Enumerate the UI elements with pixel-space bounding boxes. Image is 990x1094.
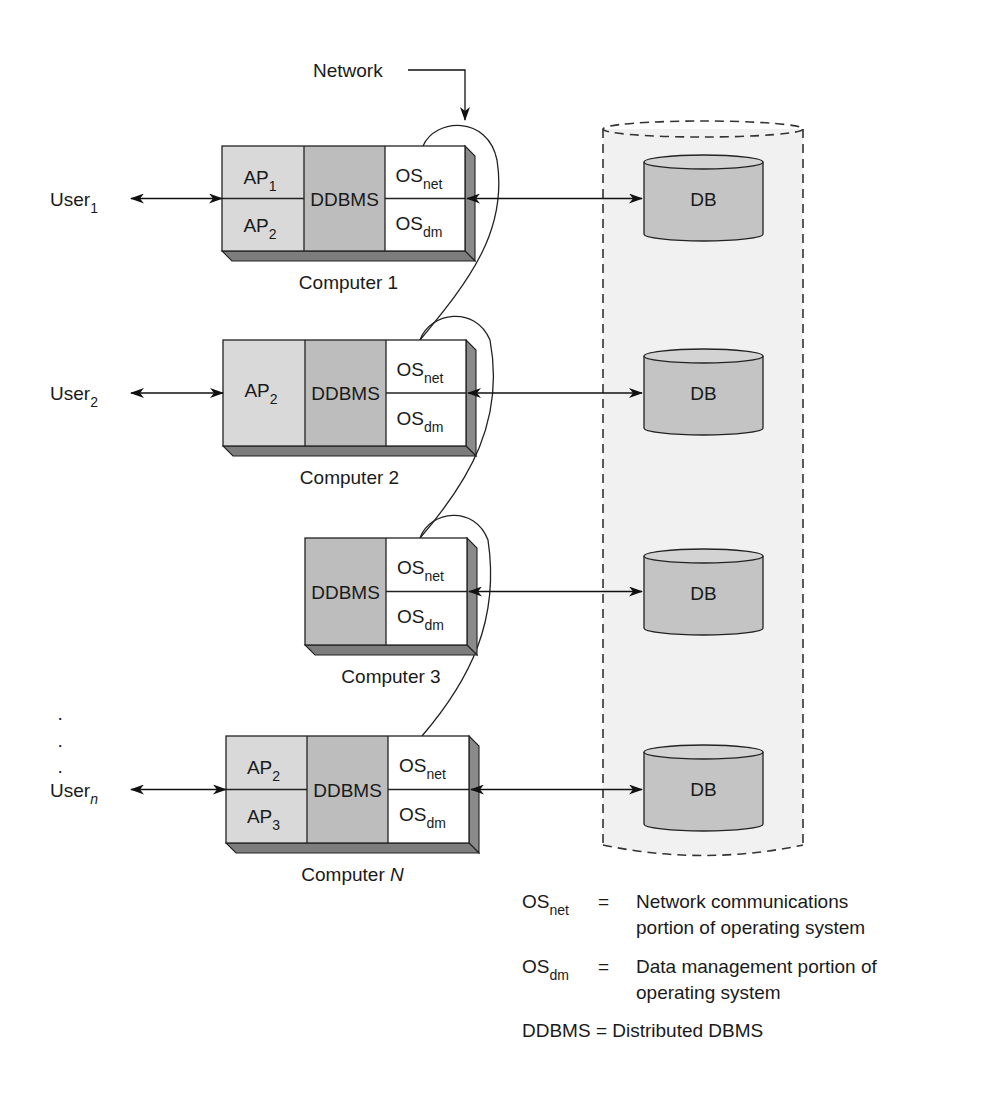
legend-definition: Data management portion of [636,956,878,977]
legend: OSnet=Network communicationsportion of o… [522,891,878,1041]
box-bevel-bottom [226,843,479,853]
network-pointer-arrow [408,70,465,120]
computer-caption: Computer 2 [300,467,399,488]
box-bevel-bottom [223,446,476,456]
computer-n: AP2AP3DDBMSOSnetOSdmComputer NUsern [50,736,642,885]
legend-equals: = [598,891,609,912]
legend-definition: portion of operating system [636,917,865,938]
computer-caption: Computer N [301,864,404,885]
ellipsis-dots: · · · [57,707,63,781]
legend-entry: DDBMS = Distributed DBMS [522,1020,763,1041]
computer-3: DDBMSOSnetOSdmComputer 3 [305,538,642,687]
box-bevel-right [469,736,479,853]
box-bevel-bottom [222,251,475,261]
legend-term: OSdm [522,956,569,983]
network-label: Network [313,60,383,81]
user-label: User2 [50,383,98,410]
ddbms-label: DDBMS [313,780,382,801]
legend-entry: OSnet=Network communicationsportion of o… [522,891,865,938]
db-label: DB [690,779,716,800]
box-bevel-right [465,146,475,261]
ddbms-label: DDBMS [311,383,380,404]
db-label: DB [690,583,716,604]
box-bevel-right [466,340,476,456]
ellipsis-dot: · [57,734,63,755]
legend-definition: operating system [636,982,781,1003]
database-cylinder: DB [644,349,763,435]
box-bevel-bottom [305,645,477,655]
database-cylinder: DB [644,155,763,241]
ellipsis-dot: · [57,707,63,728]
network-label-group: Network [313,60,465,120]
box-bevel-right [467,538,477,655]
computer-1: AP1AP2DDBMSOSnetOSdmComputer 1User1 [50,146,642,293]
distributed-dbms-diagram: Network AP1AP2DDBMSOSnetOSdmComputer 1Us… [0,0,990,1094]
database-cylinder: DB [644,549,763,635]
legend-equals: = [598,956,609,977]
user-label: User1 [50,189,98,216]
ddbms-label: DDBMS [310,189,379,210]
legend-term: OSnet [522,891,569,918]
legend-definition: Network communications [636,891,848,912]
user-label: Usern [50,780,98,807]
db-label: DB [690,189,716,210]
legend-entry: OSdm=Data management portion ofoperating… [522,956,878,1003]
ddbms-label: DDBMS [311,582,380,603]
computer-caption: Computer 1 [299,272,398,293]
computer-2: AP2DDBMSOSnetOSdmComputer 2User2 [50,340,642,488]
db-label: DB [690,383,716,404]
computers-group: AP1AP2DDBMSOSnetOSdmComputer 1User1AP2DD… [50,146,642,885]
legend-term: DDBMS = Distributed DBMS [522,1020,763,1041]
computer-caption: Computer 3 [341,666,440,687]
ellipsis-dot: · [57,760,63,781]
database-cylinder: DB [644,745,763,831]
